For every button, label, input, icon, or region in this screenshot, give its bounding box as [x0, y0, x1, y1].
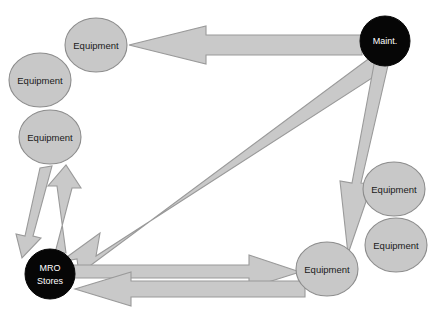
edge-maint-to-mro-stores — [60, 57, 383, 274]
node-equipment-upper-left[interactable]: Equipment — [9, 53, 71, 107]
edge-mro-stores-to-equipment-mid-left — [48, 165, 81, 253]
node-label: Equipment — [304, 264, 350, 275]
edge-equipment-mid-left-to-mro-stores — [16, 166, 52, 258]
node-equipment-right-lower[interactable]: Equipment — [365, 218, 427, 272]
diagram-svg: Equipment Equipment Equipment Equipment … — [0, 0, 443, 314]
node-label: Equipment — [371, 184, 417, 195]
node-label-line1: MRO — [40, 263, 61, 273]
node-equipment-mid-left[interactable]: Equipment — [19, 110, 81, 164]
node-equipment-right-upper[interactable]: Equipment — [363, 162, 425, 216]
node-label: Equipment — [73, 40, 119, 51]
diagram-canvas: Equipment Equipment Equipment Equipment … — [0, 0, 443, 314]
node-mro-stores[interactable]: MRO Stores — [25, 249, 75, 299]
node-label: Maint. — [373, 36, 398, 46]
node-label: Equipment — [373, 240, 419, 251]
node-shape[interactable] — [25, 249, 75, 299]
node-label-line2: Stores — [37, 276, 64, 286]
node-label: Equipment — [27, 132, 73, 143]
node-equipment-bottom[interactable]: Equipment — [296, 242, 358, 296]
edge-maint-to-equipment-top — [129, 26, 362, 64]
node-label: Equipment — [17, 75, 63, 86]
node-equipment-top[interactable]: Equipment — [65, 18, 127, 72]
node-maintenance[interactable]: Maint. — [360, 16, 410, 66]
